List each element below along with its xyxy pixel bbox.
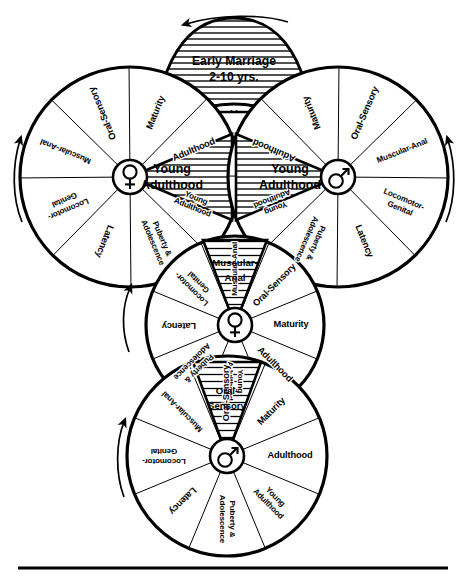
sector-label-group: Latency (161, 321, 196, 331)
left-young-adulthood-line2: Adulthood (141, 178, 203, 192)
right-young-adulthood-line2: Adulthood (259, 178, 321, 192)
middle-muscular-anal-line2: Anal (225, 272, 246, 283)
middle-muscular-anal-line1: Muscular- (212, 257, 257, 268)
sector-label: Muscular-Anal (230, 242, 239, 296)
bottom-wheel-rotation-arrow (118, 422, 124, 497)
early-marriage-line2: 2-10 yrs. (209, 70, 258, 84)
bottom-oral-sensory-line2: Sensory (208, 400, 247, 411)
sector-label: Locomotor- (142, 457, 186, 466)
sector-label: Maturity (274, 319, 310, 329)
sector-label: Adolescence (218, 495, 227, 544)
bottom-hub-circle[interactable] (210, 439, 244, 473)
early-marriage-line1: Early Marriage (192, 54, 276, 68)
sector-label-group: Maturity (274, 319, 310, 329)
bottom-oral-sensory-line1: Oral- (216, 385, 238, 396)
sector-label: Puberty & (228, 501, 237, 538)
sector-label: Latency (161, 321, 196, 331)
life-cycle-diagram: MaturityOral-SensoryMuscular-AnalLocomot… (0, 0, 466, 584)
sector-label: Adulthood (267, 450, 313, 460)
sector-label-group: Puberty &Adolescence (218, 495, 237, 544)
right-hub-circle[interactable] (321, 160, 355, 194)
middle-wheel-rotation-arrow (123, 288, 130, 352)
sector-label-group: Muscular-Anal (230, 242, 239, 296)
left-young-adulthood-line1: Young (153, 162, 191, 176)
sector-label-group: Adulthood (267, 450, 313, 460)
right-young-adulthood-line1: Young (271, 162, 309, 176)
diagram-canvas: MaturityOral-SensoryMuscular-AnalLocomot… (0, 0, 466, 584)
sector-label: Genital (151, 447, 177, 456)
